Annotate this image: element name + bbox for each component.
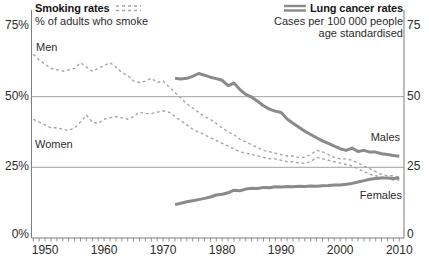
y-axis-right-label: 25 [407, 159, 420, 173]
series-line-women [33, 111, 399, 180]
y-axis-right-label: 0 [407, 227, 414, 241]
series-label-females: Females [360, 189, 402, 201]
x-axis-label: 2000 [327, 243, 354, 257]
x-axis-label: 1990 [268, 243, 295, 257]
legend-smoking: Smoking rates % of adults who smoke [35, 2, 148, 27]
legend-lung-cancer-subtitle-2: age standardised [274, 27, 403, 40]
dashed-line-icon [115, 3, 141, 13]
legend-lung-cancer: Lung cancer rates Cases per 100 000 peop… [274, 2, 403, 40]
x-axis-label: 1980 [209, 243, 236, 257]
legend-smoking-title: Smoking rates [35, 2, 110, 15]
legend-lung-cancer-subtitle-1: Cases per 100 000 people [274, 15, 403, 28]
y-axis-right-label: 50 [407, 89, 420, 103]
x-axis-label: 2010 [386, 243, 413, 257]
solid-line-icon [284, 3, 306, 13]
y-axis-left-label: 50% [0, 89, 29, 103]
series-line-men [33, 54, 399, 177]
x-axis-label: 1950 [32, 243, 59, 257]
x-axis-label: 1960 [91, 243, 118, 257]
legend-lung-cancer-title-row: Lung cancer rates [274, 2, 403, 15]
series-label-men: Men [36, 41, 57, 53]
y-axis-left-label: 25% [0, 159, 29, 173]
y-axis-left-label: 75% [0, 18, 29, 32]
legend-smoking-subtitle: % of adults who smoke [35, 15, 148, 28]
series-line-males [175, 74, 399, 157]
legend-lung-cancer-title: Lung cancer rates [310, 2, 403, 15]
series-label-males: Males [371, 131, 400, 143]
y-axis-left-label: 0% [0, 227, 29, 241]
smoking-lung-cancer-chart: Smoking rates % of adults who smoke Lung… [0, 0, 429, 262]
y-axis-right-label: 75 [407, 18, 420, 32]
x-axis-label: 1970 [150, 243, 177, 257]
series-label-women: Women [35, 138, 73, 150]
legend-smoking-title-row: Smoking rates [35, 2, 148, 15]
